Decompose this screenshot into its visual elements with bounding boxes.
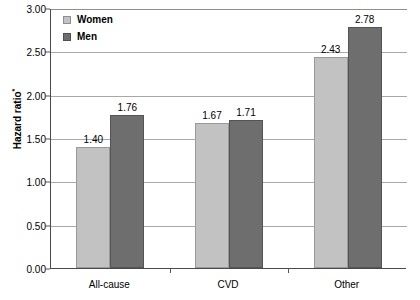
y-tick-label: 1.00 xyxy=(0,177,46,188)
bar-cvd-men xyxy=(229,120,263,268)
hazard-ratio-bar-chart: Hazard ratio* 0.000.501.001.502.002.503.… xyxy=(0,0,420,300)
x-axis-label-cvd: CVD xyxy=(217,279,238,290)
x-axis-tick-mark xyxy=(288,268,289,273)
legend-swatch-men-icon xyxy=(63,33,71,41)
y-tick-label: 2.00 xyxy=(0,90,46,101)
plot-area: 1.401.761.671.712.432.78 Women Men xyxy=(50,9,406,269)
bars-layer: 1.401.761.671.712.432.78 xyxy=(51,9,406,268)
x-axis-label-all-cause: All-cause xyxy=(89,279,130,290)
legend-item-women: Women xyxy=(63,12,113,27)
x-axis-label-other: Other xyxy=(334,279,359,290)
bar-value-label: 1.71 xyxy=(236,107,255,118)
bar-other-men xyxy=(348,27,382,268)
legend: Women Men xyxy=(63,12,113,46)
y-tick-label: 0.00 xyxy=(0,264,46,275)
y-axis-tick-labels: 0.000.501.001.502.002.503.00 xyxy=(0,0,46,300)
bar-value-label: 2.43 xyxy=(321,44,340,55)
y-tick-label: 3.00 xyxy=(0,4,46,15)
bar-all-cause-women xyxy=(76,147,110,268)
bar-cvd-women xyxy=(195,123,229,268)
bar-all-cause-men xyxy=(110,115,144,268)
y-tick-label: 1.50 xyxy=(0,134,46,145)
legend-swatch-women-icon xyxy=(63,16,71,24)
legend-label-women: Women xyxy=(77,14,113,25)
bar-value-label: 1.40 xyxy=(84,134,103,145)
bar-value-label: 1.76 xyxy=(118,102,137,113)
bar-value-label: 2.78 xyxy=(355,14,374,25)
legend-label-men: Men xyxy=(77,31,97,42)
bar-other-women xyxy=(314,57,348,268)
legend-item-men: Men xyxy=(63,29,113,44)
y-tick-label: 0.50 xyxy=(0,220,46,231)
x-axis-tick-mark xyxy=(170,268,171,273)
y-tick-label: 2.50 xyxy=(0,47,46,58)
bar-value-label: 1.67 xyxy=(202,110,221,121)
